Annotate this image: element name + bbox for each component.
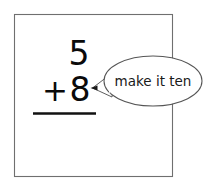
addend-top-digit: 5 bbox=[69, 34, 90, 73]
addend-bottom-digit: 8 bbox=[70, 70, 91, 109]
worksheet-canvas: 5 + 8 make it ten bbox=[0, 0, 215, 187]
addition-operator: + bbox=[42, 72, 68, 108]
worksheet-illustration: 5 + 8 make it ten bbox=[0, 0, 215, 187]
callout-label: make it ten bbox=[115, 73, 192, 89]
